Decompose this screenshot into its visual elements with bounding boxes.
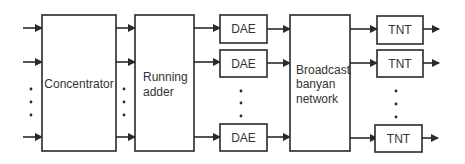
- dae-ellipsis: [240, 90, 243, 118]
- tnt-label: TNT: [388, 57, 412, 71]
- diagram-canvas: Concentrator Running adder DAE DAE DAE B…: [0, 0, 465, 164]
- concentrator-label: Concentrator: [44, 77, 113, 91]
- dae-label: DAE: [231, 131, 256, 145]
- tnt-ellipsis: [395, 90, 398, 119]
- input-ellipsis: [30, 88, 33, 117]
- broadcast-label-line1: Broadcast: [296, 63, 351, 77]
- tnt-label: TNT: [388, 23, 412, 37]
- dae-label: DAE: [231, 22, 256, 36]
- tnt-label: TNT: [387, 132, 411, 146]
- running-adder-label-line2: adder: [143, 85, 174, 99]
- concentrator-output-ellipsis: [123, 88, 126, 117]
- block-diagram: Concentrator Running adder DAE DAE DAE B…: [0, 0, 465, 164]
- running-adder-label-line1: Running: [143, 70, 188, 84]
- broadcast-label-line3: network: [296, 92, 339, 106]
- dae-label: DAE: [231, 57, 256, 71]
- broadcast-label-line2: banyan: [296, 77, 335, 91]
